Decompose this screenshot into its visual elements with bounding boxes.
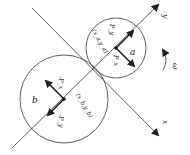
force-neg-py-label: -P_y bbox=[57, 114, 65, 128]
force-px-label: P_x bbox=[112, 54, 120, 67]
y-axis bbox=[12, 5, 158, 148]
contact-diagram: y x ω a b (x_a,y_a) (x_b,y_b) P_y P_x -P… bbox=[0, 0, 190, 155]
force-neg-px-label: -P_x bbox=[57, 76, 65, 90]
rotation-arrow-icon bbox=[163, 50, 166, 70]
omega-label: ω bbox=[171, 63, 180, 70]
circle-b-label: b bbox=[32, 95, 38, 105]
force-py-label: P_y bbox=[108, 23, 116, 36]
force-neg-py-arrow bbox=[48, 99, 64, 115]
center-b-label: (x_b,y_b) bbox=[74, 92, 95, 120]
x-axis-label: x bbox=[161, 120, 170, 125]
force-py-arrow bbox=[116, 31, 133, 48]
circle-a-label: a bbox=[130, 47, 135, 57]
center-a-label: (x_a,y_a) bbox=[90, 28, 111, 56]
y-axis-label: y bbox=[161, 13, 170, 19]
